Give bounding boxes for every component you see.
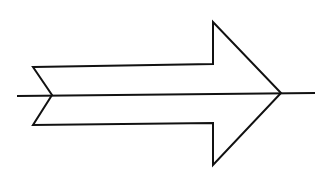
background	[0, 0, 333, 178]
arrow-diagram	[0, 0, 333, 178]
